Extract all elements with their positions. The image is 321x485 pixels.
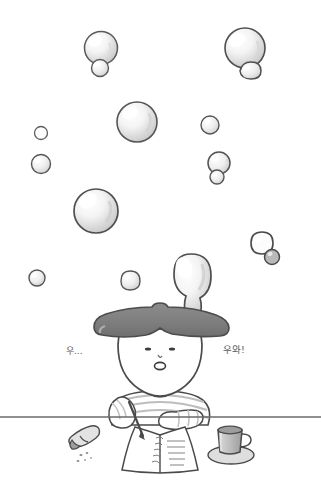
open-o-mouth: [155, 362, 166, 369]
sound-effect-right: 우와!: [223, 345, 245, 355]
bubble-b14: [29, 270, 45, 286]
left-eye-dot: [145, 348, 151, 351]
right-eye-dot: [169, 348, 175, 351]
mug-handle: [241, 434, 251, 447]
bubble-b04: [240, 62, 261, 79]
eraser-crumbs: [77, 452, 92, 462]
mug-rim: [218, 426, 242, 434]
desk-item-mug: [208, 426, 254, 464]
bubble-b05: [117, 102, 157, 142]
bubble-b03: [225, 28, 265, 68]
character-right-arm: [159, 410, 203, 430]
bubble-b06: [201, 116, 219, 134]
bubble-b02: [92, 60, 109, 77]
bubble-b07: [35, 127, 48, 140]
desk-item-eraser: [69, 426, 100, 462]
character-left-arm: [109, 397, 136, 428]
bubble-field: [29, 28, 280, 290]
bubble-b13: [265, 250, 280, 265]
bubble-b15: [121, 271, 140, 290]
bubble-b11: [74, 189, 118, 233]
desk-item-notebook: [122, 427, 198, 473]
illustration-artwork: [0, 0, 321, 485]
sound-effect-left: 우...: [66, 347, 83, 356]
illustration-canvas: 우... 우와!: [0, 0, 321, 485]
character-kid: [94, 303, 229, 430]
bubble-b10: [210, 170, 224, 184]
bubble-b08: [32, 155, 51, 174]
